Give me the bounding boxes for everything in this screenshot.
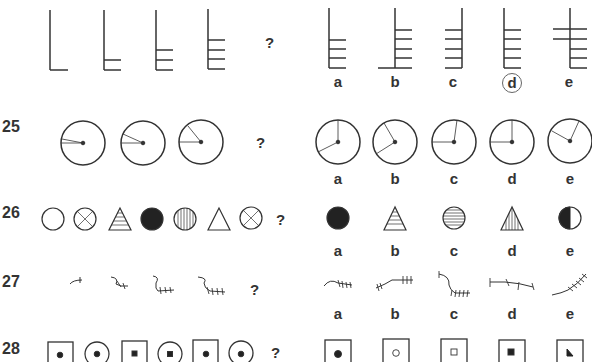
option-c[interactable]: c — [444, 170, 464, 187]
option-a[interactable]: a — [328, 170, 348, 187]
seq-figures — [0, 100, 300, 190]
option-d[interactable]: d — [502, 242, 522, 259]
option-e[interactable]: e — [560, 242, 580, 259]
question-mark: ? — [276, 211, 285, 228]
question-mark: ? — [265, 34, 274, 51]
option-d[interactable]: d — [502, 305, 522, 322]
option-d[interactable]: d — [502, 170, 522, 187]
option-e[interactable]: e — [559, 73, 579, 90]
option-c[interactable]: c — [444, 305, 464, 322]
option-c[interactable]: c — [443, 73, 463, 90]
option-b[interactable]: b — [385, 170, 405, 187]
question-mark: ? — [271, 344, 280, 361]
answer-options-figures — [300, 325, 592, 362]
option-b[interactable]: b — [385, 242, 405, 259]
seq-figure-1 — [0, 0, 300, 100]
option-a[interactable]: a — [328, 242, 348, 259]
option-e[interactable]: e — [560, 305, 580, 322]
seq-figures — [0, 190, 300, 260]
option-b[interactable]: b — [385, 305, 405, 322]
question-mark: ? — [250, 281, 259, 298]
option-a[interactable]: a — [328, 305, 348, 322]
question-mark: ? — [256, 134, 265, 151]
option-a[interactable]: a — [328, 73, 348, 90]
option-c[interactable]: c — [444, 242, 464, 259]
option-d-circled[interactable]: d — [502, 73, 522, 93]
option-e[interactable]: e — [560, 170, 580, 187]
seq-figures — [0, 325, 300, 362]
option-b[interactable]: b — [385, 73, 405, 90]
